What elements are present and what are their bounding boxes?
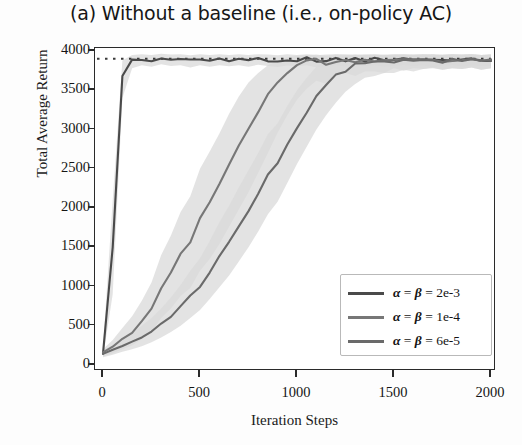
legend-item-2[interactable]: α = β = 1e-4 (348, 305, 484, 329)
x-tick-label: 500 (164, 384, 234, 401)
chart-title: (a) Without a baseline (i.e., on-policy … (0, 2, 522, 24)
x-tick-mark (489, 370, 491, 377)
y-tick-label: 2000 (28, 199, 90, 214)
legend-swatch-icon (348, 292, 384, 295)
y-tick-label: 2500 (28, 160, 90, 175)
legend-label: α = β = 6e-5 (393, 333, 460, 349)
x-tick-mark (101, 370, 103, 377)
legend-swatch-icon (348, 316, 384, 319)
chart-figure: (a) Without a baseline (i.e., on-policy … (0, 0, 522, 445)
legend[interactable]: α = β = 2e-3α = β = 1e-4α = β = 6e-5 (340, 274, 492, 356)
y-tick: 3000 (20, 121, 90, 135)
legend-label: α = β = 1e-4 (393, 309, 460, 325)
legend-item-1[interactable]: α = β = 2e-3 (348, 281, 484, 305)
x-tick-label: 0 (67, 384, 137, 401)
legend-label: α = β = 2e-3 (393, 285, 460, 301)
legend-item-3[interactable]: α = β = 6e-5 (348, 329, 484, 353)
x-tick-mark (198, 370, 200, 377)
x-tick-mark (392, 370, 394, 377)
x-tick-mark (295, 370, 297, 377)
x-tick-label: 2000 (455, 384, 522, 401)
y-tick: 2000 (20, 199, 90, 213)
y-tick: 2500 (20, 160, 90, 174)
x-tick-label: 1000 (261, 384, 331, 401)
x-tick-label: 1500 (358, 384, 428, 401)
y-tick-label: 3500 (28, 81, 90, 96)
y-tick: 3500 (20, 81, 90, 95)
y-tick: 4000 (20, 42, 90, 56)
y-tick-label: 1500 (28, 238, 90, 253)
y-tick-label: 4000 (28, 42, 90, 57)
y-tick-label: 3000 (28, 121, 90, 136)
x-axis-label: Iteration Steps (94, 412, 495, 429)
legend-swatch-icon (348, 340, 384, 343)
y-tick-label: 0 (28, 356, 90, 371)
y-tick: 0 (20, 356, 90, 370)
y-tick: 1000 (20, 278, 90, 292)
y-tick-label: 1000 (28, 278, 90, 293)
y-tick: 500 (20, 317, 90, 331)
y-tick-label: 500 (28, 317, 90, 332)
y-tick: 1500 (20, 238, 90, 252)
